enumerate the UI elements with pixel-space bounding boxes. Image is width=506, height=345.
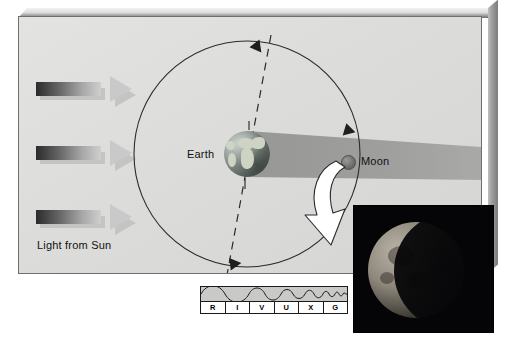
spectrum-band-v: V — [250, 302, 275, 313]
spectrum-wave-svg — [201, 287, 347, 301]
spectrum-band-r: R — [201, 302, 226, 313]
spectrum-wave-path — [201, 287, 347, 301]
moon-to-photo-arrow — [305, 161, 345, 245]
spectrum-band-u: U — [275, 302, 300, 313]
label-moon: Moon — [361, 155, 389, 167]
spectrum-band-i: I — [226, 302, 251, 313]
moon-photo-mare-3 — [380, 272, 394, 284]
spectrum-band-g: G — [324, 302, 348, 313]
label-earth: Earth — [187, 148, 214, 160]
spectrum-waveform — [201, 287, 347, 301]
spectrum-band-x: X — [299, 302, 324, 313]
spectrum-band-labels: R I V U X G — [201, 301, 347, 313]
label-light-from-sun: Light from Sun — [37, 239, 111, 251]
eclipsed-moon-photo — [353, 205, 494, 333]
spectrum-bar: R I V U X G — [200, 286, 348, 314]
